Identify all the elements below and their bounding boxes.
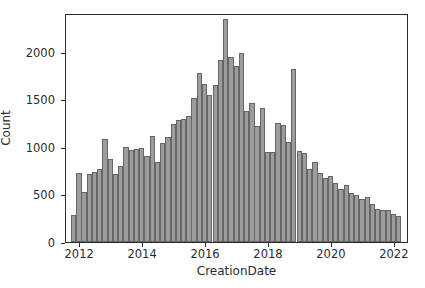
x-tick-mark (394, 243, 395, 247)
x-tick-mark (331, 243, 332, 247)
plot-area (65, 14, 408, 243)
x-tick-mark (79, 243, 80, 247)
x-tick-mark (268, 243, 269, 247)
x-tick-mark (142, 243, 143, 247)
y-tick-label: 0 (48, 236, 55, 250)
y-tick-label: 1000 (26, 141, 55, 155)
y-tick-label: 1500 (26, 93, 55, 107)
bars-layer (66, 15, 407, 242)
y-tick-label: 500 (33, 188, 55, 202)
y-tick-mark (61, 195, 65, 196)
histogram-bar (396, 216, 401, 242)
y-tick-mark (61, 243, 65, 244)
histogram-figure: 0500100015002000 20122014201620182020202… (0, 0, 425, 288)
x-tick-label: 2012 (65, 247, 94, 261)
y-axis-title: Count (0, 110, 13, 146)
y-tick-mark (61, 100, 65, 101)
x-tick-label: 2016 (190, 247, 219, 261)
y-tick-mark (61, 53, 65, 54)
x-axis-title: CreationDate (65, 264, 408, 278)
y-tick-mark (61, 148, 65, 149)
x-tick-label: 2020 (316, 247, 345, 261)
x-tick-label: 2014 (127, 247, 156, 261)
x-tick-label: 2018 (253, 247, 282, 261)
y-tick-label: 2000 (26, 46, 55, 60)
x-tick-label: 2022 (379, 247, 408, 261)
x-tick-mark (205, 243, 206, 247)
